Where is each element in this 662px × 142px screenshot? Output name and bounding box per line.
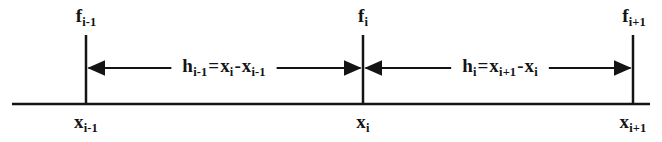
equation-h-i-term1-sub: i+1 bbox=[499, 65, 516, 79]
node-label-f-i-base: f bbox=[358, 5, 365, 26]
equation-h-i-equals: = bbox=[477, 55, 490, 76]
node-label-x-i-minus-1-sub: i-1 bbox=[84, 121, 98, 135]
node-label-f-i-plus-1-sub: i+1 bbox=[629, 15, 646, 29]
node-label-f-i-plus-1: fi+1 bbox=[622, 6, 646, 25]
interval-equation-h-i: hi=xi+1-xi bbox=[457, 56, 543, 75]
equation-h-i-minus-1-term2-sub: i-1 bbox=[251, 65, 265, 79]
grid-spacing-diagram: fi-1 fi fi+1 xi-1 xi xi+1 hi-1=xi-xi-1 h… bbox=[0, 0, 662, 142]
equation-h-i-lhs-base: h bbox=[462, 55, 473, 76]
node-label-x-i-plus-1: xi+1 bbox=[620, 112, 647, 131]
node-label-x-i-base: x bbox=[356, 111, 366, 132]
equation-h-i-lhs-sub: i bbox=[473, 65, 477, 79]
node-label-x-i: xi bbox=[356, 112, 369, 131]
node-label-f-i-plus-1-base: f bbox=[622, 5, 629, 26]
equation-h-i-term2-base: x bbox=[525, 55, 535, 76]
node-label-f-i-minus-1-base: f bbox=[76, 5, 83, 26]
node-label-f-i: fi bbox=[358, 6, 368, 25]
ink-group bbox=[12, 35, 650, 104]
equation-h-i-minus-1-term2-base: x bbox=[242, 55, 252, 76]
equation-h-i-minus-1-equals: = bbox=[207, 55, 220, 76]
equation-h-i-minus-1-lhs-base: h bbox=[182, 55, 193, 76]
node-label-f-i-minus-1: fi-1 bbox=[76, 6, 97, 25]
equation-h-i-minus-1-term1-sub: i bbox=[230, 65, 234, 79]
node-label-x-i-minus-1-base: x bbox=[74, 111, 84, 132]
node-label-f-i-minus-1-sub: i-1 bbox=[82, 15, 96, 29]
equation-h-i-term2-sub: i bbox=[534, 65, 538, 79]
node-label-x-i-plus-1-sub: i+1 bbox=[629, 121, 646, 135]
node-label-x-i-minus-1: xi-1 bbox=[74, 112, 98, 131]
node-label-f-i-sub: i bbox=[364, 15, 368, 29]
node-label-x-i-sub: i bbox=[366, 121, 370, 135]
node-label-x-i-plus-1-base: x bbox=[620, 111, 630, 132]
diagram-canvas bbox=[0, 0, 662, 142]
equation-h-i-minus-1-lhs-sub: i-1 bbox=[193, 65, 207, 79]
equation-h-i-term1-base: x bbox=[489, 55, 499, 76]
interval-equation-h-i-minus-1: hi-1=xi-xi-1 bbox=[177, 56, 270, 75]
equation-h-i-minus-1-term1-base: x bbox=[220, 55, 230, 76]
